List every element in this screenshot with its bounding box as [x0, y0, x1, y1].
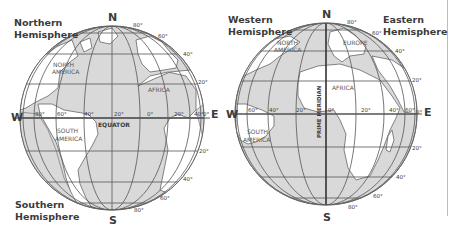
east-label: E [211, 108, 219, 121]
latitude-label: 80° [134, 207, 144, 213]
south-america-label: SOUTH [247, 128, 268, 135]
latitude-label: 20° [412, 77, 422, 83]
longitude-label: 20° [114, 111, 124, 117]
west-label: W [11, 111, 23, 124]
latitude-label: 40° [183, 51, 193, 57]
latitude-label: 20° [199, 148, 209, 154]
longitude-label: 0° [147, 111, 153, 117]
longitude-label: 40° [269, 107, 279, 113]
right-globe [230, 23, 422, 205]
prime-meridian-label: PRIME MERIDIAN [316, 86, 322, 138]
north-america-label: AMERICA [274, 46, 301, 53]
longitude-label: 80° [35, 111, 45, 117]
label-line: Western [228, 14, 292, 26]
south-america-label: SOUTH [57, 127, 78, 134]
north-america-label: NORTH [277, 39, 298, 46]
east-label: E [424, 106, 432, 119]
longitude-label: 20° [361, 107, 371, 113]
label-line: Hemisphere [228, 26, 292, 38]
north-america-label: AMERICA [52, 68, 79, 75]
label-line: Hemisphere [383, 26, 447, 38]
label-line: Northern [14, 17, 78, 29]
west-label: W [226, 108, 238, 121]
latitude-label: 60° [158, 33, 168, 39]
south-label: S [109, 214, 117, 227]
label-line: Hemisphere [15, 211, 79, 223]
longitude-label: 40° [389, 107, 399, 113]
north-america-label: NORTH [53, 61, 74, 68]
eastern-hemisphere-label: Eastern Hemisphere [383, 14, 447, 38]
latitude-label: 60° [372, 30, 382, 36]
label-line: Southern [15, 199, 79, 211]
south-label: S [323, 211, 331, 224]
longitude-label: 0° [328, 107, 334, 113]
equator-degree-label: 0° [416, 109, 422, 115]
latitude-label: 60° [373, 193, 383, 199]
africa-label: AFRICA [332, 84, 354, 91]
south-america-label: AMERICA [243, 136, 270, 143]
label-line: Eastern [383, 14, 447, 26]
north-label: N [322, 8, 331, 21]
longitude-label: 40° [194, 111, 204, 117]
latitude-label: 40° [395, 48, 405, 54]
longitude-label: 60° [405, 107, 415, 113]
longitude-label: 60° [248, 107, 258, 113]
latitude-label: 20° [198, 79, 208, 85]
longitude-label: 20° [296, 107, 306, 113]
africa-label: AFRICA [148, 86, 170, 93]
latitude-label: 80° [347, 19, 357, 25]
left-globe [14, 26, 210, 212]
northern-hemisphere-label: Northern Hemisphere [14, 17, 78, 41]
north-label: N [108, 11, 117, 24]
latitude-label: 80° [133, 22, 143, 28]
latitude-label: 20° [412, 145, 422, 151]
equator-label: EQUATOR [98, 121, 130, 128]
latitude-label: 80° [348, 204, 358, 210]
south-america-label: AMERICA [55, 135, 82, 142]
europe-label: EUROPE [343, 39, 367, 46]
longitude-label: 60° [57, 111, 67, 117]
western-hemisphere-label: Western Hemisphere [228, 14, 292, 38]
southern-hemisphere-label: Southern Hemisphere [15, 199, 79, 223]
latitude-label: 60° [160, 195, 170, 201]
latitude-label: 40° [183, 176, 193, 182]
latitude-label: 40° [396, 174, 406, 180]
longitude-label: 40° [84, 111, 94, 117]
label-line: Hemisphere [14, 29, 78, 41]
longitude-label: 20° [174, 111, 184, 117]
